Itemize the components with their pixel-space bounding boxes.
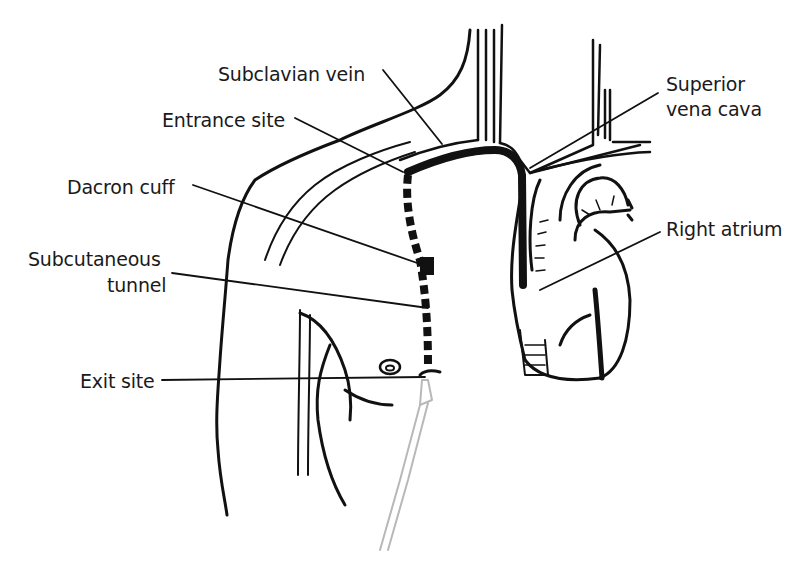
- clavicle-lines: [265, 142, 415, 475]
- label-subcutaneous: Subcutaneous: [28, 248, 161, 270]
- label-entrance-site: Entrance site: [162, 109, 285, 131]
- exit-site-mark: [420, 371, 440, 375]
- label-dacron-cuff: Dacron cuff: [67, 176, 175, 198]
- label-subclavian-vein: Subclavian vein: [218, 63, 365, 85]
- arm-line: [300, 313, 351, 420]
- label-superior: Superior: [666, 73, 745, 95]
- label-vena-cava: vena cava: [666, 98, 762, 120]
- label-tunnel: tunnel: [107, 274, 166, 296]
- nipple-icon: [380, 360, 400, 374]
- label-exit-site: Exit site: [80, 370, 155, 392]
- heart: [512, 165, 632, 380]
- superior-vena-cava: [520, 40, 650, 173]
- label-right-atrium: Right atrium: [666, 218, 782, 240]
- dacron-cuff: [420, 257, 434, 275]
